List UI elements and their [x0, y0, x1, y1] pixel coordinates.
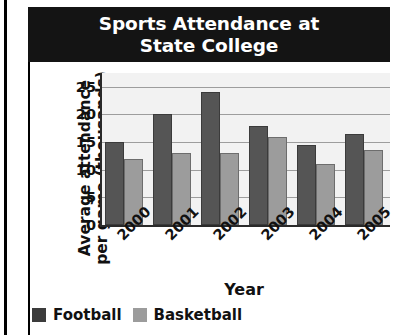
- chart-title-banner: Sports Attendance at State College: [28, 7, 390, 62]
- y-axis-tick-label: 20: [76, 106, 96, 122]
- bars-layer: [102, 73, 390, 225]
- chart-legend: FootballBasketball: [30, 306, 392, 324]
- legend-label: Basketball: [154, 306, 243, 324]
- bar-football-2004: [297, 145, 316, 225]
- chart-title: Sports Attendance at State College: [99, 13, 320, 56]
- legend-swatch-basketball-icon: [133, 308, 147, 322]
- legend-swatch-football-icon: [32, 308, 46, 322]
- legend-item-basketball[interactable]: Basketball: [133, 306, 243, 324]
- legend-item-football[interactable]: Football: [32, 306, 122, 324]
- bar-football-2002: [201, 92, 220, 225]
- y-axis-tick-label: 15: [76, 134, 96, 150]
- legend-label: Football: [53, 306, 122, 324]
- y-axis-tick-label: 25: [76, 79, 96, 95]
- chart-body-panel: Average attendance per game (thousands) …: [28, 62, 392, 335]
- page-edge-rule: [4, 0, 7, 335]
- bar-football-2001: [153, 114, 172, 225]
- y-axis-tick-label: 0: [86, 217, 96, 233]
- bar-football-2000: [105, 142, 124, 225]
- y-axis-tick-label: 10: [76, 162, 96, 178]
- x-axis-title: Year: [100, 280, 388, 299]
- plot-area: 0510152025 200020012002200320042005: [100, 73, 390, 227]
- bar-football-2005: [345, 134, 364, 225]
- y-axis-tick-label: 5: [86, 189, 96, 205]
- chart-figure: Sports Attendance at State College Avera…: [0, 0, 397, 335]
- bar-football-2003: [249, 126, 268, 225]
